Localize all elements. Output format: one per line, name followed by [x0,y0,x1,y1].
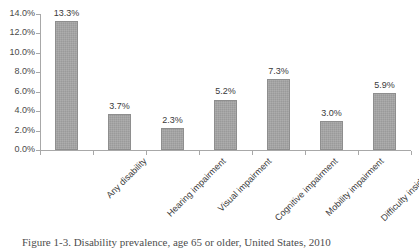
bar [161,128,184,150]
bar-value-label: 3.0% [309,107,355,119]
bar-value-label: 2.3% [150,114,196,126]
figure-caption: Figure 1-3. Disability prevalence, age 6… [22,236,331,249]
bar [214,100,237,151]
y-axis-tick-label: 8.0% [14,65,35,78]
x-axis-tick-mark [358,151,359,155]
x-axis-tick-mark [411,151,412,155]
bar-value-label: 7.3% [256,65,302,77]
x-axis-tick-mark [146,151,147,155]
y-axis-tick-mark [36,14,40,15]
bar [55,21,78,150]
y-axis-tick-label: 6.0% [14,85,35,98]
figure-container: 0.0%2.0%4.0%6.0%8.0%10.0%12.0%14.0% 13.3… [0,0,419,249]
y-axis-tick-label: 12.0% [9,26,35,39]
x-axis-category-label: Any disability [104,156,149,201]
bar [108,114,131,150]
x-axis-tick-mark [305,151,306,155]
y-axis-tick-label: 2.0% [14,124,35,137]
x-axis-tick-mark [199,151,200,155]
x-axis-tick-mark [40,151,41,155]
y-axis-tick-mark [36,92,40,93]
y-axis-line [40,14,41,150]
bar-value-label: 3.7% [97,100,143,112]
bar-value-label: 13.3% [44,7,90,19]
y-axis-tick-mark [36,111,40,112]
bar-value-label: 5.2% [203,85,249,97]
x-axis-category-label: Difficulty inside home [379,156,419,224]
y-axis-tick-label: 10.0% [9,46,35,59]
y-axis-tick-label: 0.0% [14,143,35,156]
y-axis-tick-mark [36,131,40,132]
x-axis-tick-mark [93,151,94,155]
y-axis-tick-mark [36,53,40,54]
plot-area: 0.0%2.0%4.0%6.0%8.0%10.0%12.0%14.0% 13.3… [40,14,411,150]
x-axis-tick-mark [252,151,253,155]
bar [320,121,343,150]
bar [267,79,290,150]
y-axis-tick-label: 14.0% [9,7,35,20]
x-axis-line [40,150,411,151]
y-axis-tick-mark [36,33,40,34]
y-axis-tick-mark [36,72,40,73]
bar [373,93,396,150]
bar-value-label: 5.9% [362,79,408,91]
y-axis-tick-label: 4.0% [14,104,35,117]
